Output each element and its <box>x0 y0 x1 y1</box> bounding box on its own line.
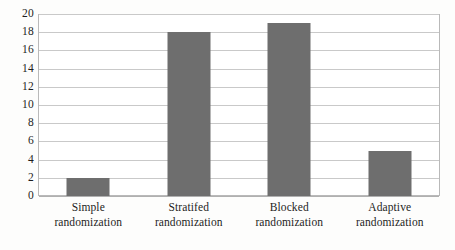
x-tick-label: Stratifedrandomization <box>134 200 244 230</box>
bar[interactable] <box>268 23 311 196</box>
y-tick-label: 6 <box>28 136 34 148</box>
x-tick-label-line: randomization <box>134 215 244 230</box>
x-tick-label: Blockedrandomization <box>234 200 344 230</box>
x-tick-label-line: Stratifed <box>134 200 244 215</box>
y-tick-label: 14 <box>22 63 34 75</box>
bar-slot <box>239 14 340 196</box>
x-axis: SimplerandomizationStratifedrandomizatio… <box>38 200 440 248</box>
x-tick-label-line: Adaptive <box>335 200 445 215</box>
x-tick-label-line: randomization <box>234 215 344 230</box>
y-axis: 02468101214161820 <box>0 14 34 196</box>
y-tick-label: 8 <box>28 117 34 129</box>
y-tick-label: 10 <box>22 99 34 111</box>
x-tick-label: Adaptiverandomization <box>335 200 445 230</box>
x-tick-label-line: randomization <box>33 215 143 230</box>
bar-slot <box>38 14 139 196</box>
bar-chart-figure: 02468101214161820 SimplerandomizationStr… <box>0 0 455 250</box>
y-tick-label: 18 <box>22 26 34 38</box>
bar[interactable] <box>67 178 110 196</box>
bar[interactable] <box>167 32 210 196</box>
bars-layer <box>38 14 440 196</box>
bar-slot <box>340 14 441 196</box>
x-tick-label-line: Simple <box>33 200 143 215</box>
x-tick-label-line: Blocked <box>234 200 344 215</box>
y-tick-label: 20 <box>22 8 34 20</box>
x-tick-label: Simplerandomization <box>33 200 143 230</box>
y-tick-label: 2 <box>28 172 34 184</box>
bar[interactable] <box>368 151 411 197</box>
gridline <box>39 196 439 197</box>
y-tick-label: 4 <box>28 154 34 166</box>
y-tick-label: 12 <box>22 81 34 93</box>
bar-slot <box>139 14 240 196</box>
x-tick-label-line: randomization <box>335 215 445 230</box>
y-tick-label: 16 <box>22 45 34 57</box>
